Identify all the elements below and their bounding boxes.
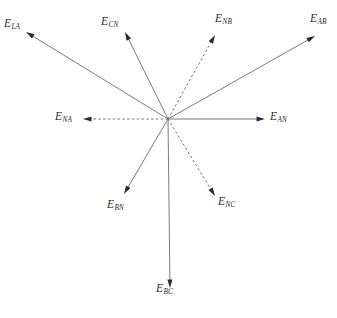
label-subscript: LA [11, 23, 20, 31]
label-symbol: E [107, 198, 114, 210]
arrowhead-e-nc [208, 187, 215, 196]
arrowhead-e-bn [124, 185, 130, 194]
vector-line-e-bc [168, 119, 170, 282]
vector-line-e-bn [127, 119, 168, 189]
label-E-LA: ELA [4, 18, 20, 32]
label-E-CN: ECN [101, 16, 118, 30]
label-E-NA: ENA [55, 111, 72, 125]
vector-line-e-nc [168, 119, 212, 191]
label-subscript: CN [108, 21, 118, 29]
arrowhead-e-na [83, 117, 92, 122]
label-subscript: BN [114, 204, 124, 212]
arrowhead-e-cn [125, 32, 131, 41]
label-E-NB: ENB [215, 13, 232, 27]
label-symbol: E [101, 15, 108, 27]
label-E-BC: EBC [156, 283, 173, 297]
label-subscript: NC [225, 201, 235, 209]
label-symbol: E [310, 12, 317, 24]
label-subscript: NB [222, 18, 232, 26]
label-E-AN: EAN [270, 111, 287, 125]
phasor-diagram: ELAECNENBEABENAEANEBNENCEBC [0, 0, 337, 318]
label-subscript: AB [317, 18, 327, 26]
vector-line-e-nb [168, 40, 212, 119]
phasor-vector-canvas [0, 0, 337, 318]
label-subscript: BC [163, 288, 173, 296]
vector-line-e-ab [168, 39, 310, 119]
label-subscript: AN [277, 116, 287, 124]
label-symbol: E [156, 282, 163, 294]
arrowhead-e-la [26, 32, 35, 39]
arrowhead-e-an [257, 117, 266, 122]
label-symbol: E [215, 12, 222, 24]
arrowhead-e-nb [209, 35, 215, 44]
label-symbol: E [55, 110, 62, 122]
label-symbol: E [4, 17, 11, 29]
label-symbol: E [218, 195, 225, 207]
label-symbol: E [270, 110, 277, 122]
arrowhead-e-ab [306, 36, 315, 42]
label-subscript: NA [62, 116, 72, 124]
label-E-AB: EAB [310, 13, 327, 27]
label-E-BN: EBN [107, 199, 124, 213]
vector-group [26, 32, 315, 288]
label-E-NC: ENC [218, 196, 235, 210]
